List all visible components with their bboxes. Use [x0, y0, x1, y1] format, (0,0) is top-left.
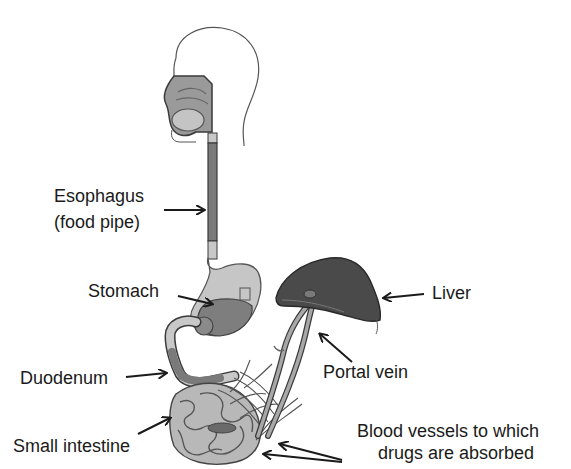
label-blood-vessels: Blood vessels to which — [357, 421, 539, 441]
label-esophagus: Esophagus — [54, 186, 144, 206]
duodenum-arrow — [126, 373, 166, 377]
liver — [276, 258, 380, 334]
liver-arrow — [384, 294, 424, 298]
blood-vessels-caption-line2: drugs are absorbed — [342, 442, 570, 464]
label-esophagus-sub: (food pipe) — [54, 212, 140, 232]
small-intestine — [170, 383, 261, 464]
label-liver: Liver — [432, 283, 471, 303]
digestive-system-diagram: Esophagus (food pipe) Stomach Liver Port… — [0, 0, 571, 469]
small-intestine-arrow — [138, 418, 170, 434]
portal-vein-arrow — [320, 334, 352, 362]
label-duodenum: Duodenum — [20, 368, 108, 388]
esophagus — [208, 133, 217, 259]
blood-vessels-caption: drugs are absorbed — [342, 442, 570, 464]
label-small-intestine: Small intestine — [13, 436, 130, 456]
label-portal-vein: Portal vein — [323, 362, 408, 382]
label-stomach: Stomach — [88, 281, 159, 301]
oral-nasal-cavity — [164, 76, 212, 142]
stomach — [191, 258, 261, 336]
